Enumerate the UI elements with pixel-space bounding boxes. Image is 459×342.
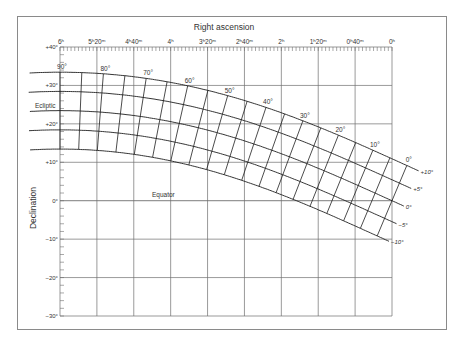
ra-tick-label: 2ʰ [278, 38, 285, 45]
ecliptic-longitude-label: 30° [300, 112, 310, 119]
ecliptic-longitude-label: 0° [406, 156, 413, 163]
labels-layer: 6ʰ5ʰ20ᵐ4ʰ40ᵐ4ʰ3ʰ20ᵐ2ʰ40ᵐ2ʰ1ʰ20ᵐ0ʰ40ᵐ0ʰ+4… [45, 38, 433, 319]
ecliptic-label: Ecliptic [35, 102, 56, 110]
ecliptic-longitude-label: 40° [263, 98, 273, 105]
ecliptic-longitude-line [276, 121, 303, 193]
ecliptic-longitude-line [207, 96, 228, 170]
ra-tick-label: 2ʰ40ᵐ [236, 38, 253, 45]
ecliptic-latitude-label: −5° [398, 222, 408, 228]
ecliptic-latitude-curve [30, 111, 404, 207]
ecliptic-latitude-label: −10° [391, 239, 404, 245]
dec-tick-label: −20° [45, 275, 58, 281]
ra-tick-label: 4ʰ40ᵐ [125, 38, 142, 45]
ecliptic-latitude-curve [30, 149, 389, 241]
y-axis-title: Declination [28, 187, 38, 229]
ecliptic-longitude-label: 70° [143, 69, 153, 76]
ra-tick-label: 5ʰ20ᵐ [88, 38, 105, 45]
ecliptic-latitude-label: +10° [421, 169, 434, 175]
ra-tick-label: 0ʰ40ᵐ [347, 38, 364, 45]
dec-tick-label: −10° [45, 236, 58, 242]
dec-tick-label: +30° [45, 82, 58, 88]
ecliptic-longitude-line [134, 78, 146, 154]
ecliptic-chart: 6ʰ5ʰ20ᵐ4ʰ40ᵐ4ʰ3ʰ20ᵐ2ʰ40ᵐ2ʰ1ʰ20ᵐ0ʰ40ᵐ0ʰ+4… [0, 0, 459, 342]
x-axis-title: Right ascension [194, 22, 255, 32]
ra-tick-label: 1ʰ20ᵐ [310, 38, 327, 45]
ecliptic-longitude-line [242, 107, 266, 180]
dec-tick-label: +20° [45, 121, 58, 127]
ecliptic-band [29, 72, 419, 241]
ra-tick-label: 4ʰ [168, 38, 175, 45]
ecliptic-longitude-line [224, 101, 247, 174]
ecliptic-longitude-line [171, 86, 188, 161]
ecliptic-longitude-label: 60° [185, 77, 195, 84]
ecliptic-longitude-label: 50° [225, 87, 235, 94]
ra-tick-label: 0ʰ [389, 38, 396, 45]
ecliptic-longitude-line [153, 82, 168, 158]
ecliptic-longitude-line [360, 158, 390, 229]
ra-tick-label: 3ʰ20ᵐ [199, 38, 216, 45]
ecliptic-latitude-label: +5° [413, 186, 423, 192]
equator-label: Equator [152, 191, 176, 199]
ecliptic-latitude-label: 0° [406, 204, 412, 210]
dec-tick-label: +10° [45, 159, 58, 165]
ecliptic-longitude-line [189, 90, 208, 165]
ecliptic-longitude-label: 20° [335, 126, 345, 133]
dec-tick-label: +40° [45, 44, 58, 50]
ecliptic-longitude-label: 90° [57, 63, 67, 70]
dec-tick-label: −30° [45, 313, 58, 319]
dec-tick-label: 0° [52, 198, 58, 204]
ecliptic-longitude-label: 80° [100, 65, 110, 72]
ra-tick-label: 6ʰ [58, 38, 65, 45]
ecliptic-longitude-line [259, 114, 285, 186]
ecliptic-longitude-label: 10° [370, 141, 380, 148]
